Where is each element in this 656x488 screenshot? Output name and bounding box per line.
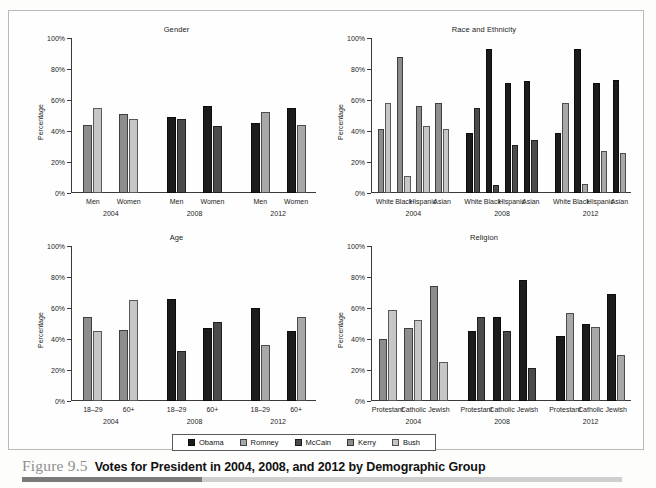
legend-item-kerry: Kerry — [347, 438, 376, 447]
legend-item-mccain: McCain — [295, 438, 331, 447]
x-axis-category-label: Men — [86, 198, 100, 205]
y-axis-tick-label: 80% — [351, 274, 365, 281]
y-axis-tick — [67, 100, 71, 101]
y-axis-tick — [67, 339, 71, 340]
bar — [519, 280, 527, 401]
x-axis-year-label: 2012 — [270, 418, 286, 425]
x-axis-category-label: Protestant — [549, 406, 581, 413]
y-axis-tick — [67, 193, 71, 194]
y-axis-tick — [367, 370, 371, 371]
bar — [203, 328, 212, 401]
x-axis-category-label: Asian — [611, 198, 629, 205]
y-axis-tick-label: 100% — [47, 35, 65, 42]
y-axis-tick-label: 80% — [51, 66, 65, 73]
x-axis-category-label: Catholic — [489, 406, 514, 413]
x-axis-category-label: Men — [253, 198, 267, 205]
x-axis-year-label: 2008 — [187, 418, 203, 425]
bar — [477, 317, 485, 401]
bar — [416, 106, 422, 193]
bar — [385, 103, 391, 193]
bar — [423, 126, 429, 193]
bar — [404, 328, 412, 401]
bar — [177, 119, 186, 193]
y-axis-tick — [367, 38, 371, 39]
legend-swatch-bush — [392, 439, 399, 446]
bar — [556, 336, 564, 401]
x-axis-category-label: Asian — [433, 198, 451, 205]
bar — [582, 184, 588, 193]
figure-frame: GenderPercentageMenWomen2004MenWomen2008… — [8, 10, 644, 450]
y-axis-tick — [367, 401, 371, 402]
bar — [505, 83, 511, 193]
bar — [582, 324, 590, 402]
legend-item-obama: Obama — [188, 438, 224, 447]
bar — [414, 320, 422, 401]
caption-rule-light — [202, 477, 622, 482]
bar — [378, 129, 384, 193]
legend-label: Romney — [251, 438, 279, 447]
bar — [620, 153, 626, 193]
bar — [297, 125, 306, 193]
y-axis-line — [71, 246, 72, 401]
figure-number: Figure 9.5 — [22, 457, 88, 475]
legend-swatch-romney — [240, 439, 247, 446]
y-axis-tick — [367, 100, 371, 101]
bar — [555, 133, 561, 193]
y-axis-tick — [67, 277, 71, 278]
y-axis-tick-label: 0% — [355, 190, 365, 197]
x-axis-category-label: Hispanic — [409, 198, 436, 205]
x-axis-year-label: 2008 — [187, 210, 203, 217]
bar — [297, 317, 306, 401]
bar — [261, 112, 270, 193]
x-axis-line — [71, 192, 316, 193]
y-axis-line — [71, 38, 72, 193]
bar — [203, 106, 212, 193]
plot-area: 100%80%60%40%20%0% — [371, 246, 631, 401]
x-axis-category-label: White — [376, 198, 394, 205]
x-axis-category-label: Protestant — [372, 406, 404, 413]
caption-rule — [22, 477, 622, 482]
bar — [562, 103, 568, 193]
y-axis-tick-label: 40% — [51, 336, 65, 343]
x-axis-category-label: 60+ — [290, 406, 302, 413]
legend-label: Obama — [199, 438, 224, 447]
figure-page: GenderPercentageMenWomen2004MenWomen2008… — [0, 0, 656, 488]
y-axis-label: Percentage — [337, 104, 344, 140]
x-axis-category-label: Jewish — [517, 406, 538, 413]
x-axis-category-label: Hispanic — [498, 198, 525, 205]
x-axis-category-label: 60+ — [123, 406, 135, 413]
x-axis-category-label: Jewish — [606, 406, 627, 413]
bar — [388, 310, 396, 401]
bar — [466, 133, 472, 193]
bar — [474, 108, 480, 193]
legend-label: Bush — [403, 438, 420, 447]
bar — [213, 322, 222, 401]
x-axis-year-label: 2008 — [494, 418, 510, 425]
x-axis-year-label: 2012 — [583, 210, 599, 217]
y-axis-tick-label: 40% — [351, 128, 365, 135]
bar — [566, 313, 574, 401]
x-axis-category-label: Protestant — [460, 406, 492, 413]
y-axis-tick-label: 0% — [55, 190, 65, 197]
x-axis-year-label: 2012 — [583, 418, 599, 425]
y-axis-tick — [67, 370, 71, 371]
y-axis-tick — [367, 339, 371, 340]
x-axis-category-label: 18–29 — [83, 406, 102, 413]
chart-title: Gender — [29, 25, 324, 34]
bar — [503, 331, 511, 401]
y-axis-tick-label: 60% — [51, 97, 65, 104]
figure-caption: Figure 9.5 Votes for President in 2004, … — [22, 457, 485, 475]
y-axis-tick-label: 20% — [351, 367, 365, 374]
bar — [512, 145, 518, 193]
legend-label: Kerry — [358, 438, 376, 447]
y-axis-tick — [367, 69, 371, 70]
bar — [129, 300, 138, 401]
x-axis-category-label: White — [553, 198, 571, 205]
bar — [261, 345, 270, 401]
y-axis-tick-label: 60% — [51, 305, 65, 312]
bar — [213, 126, 222, 193]
bar — [528, 368, 536, 401]
plot-area: 100%80%60%40%20%0% — [71, 246, 316, 401]
chart-title: Religion — [329, 233, 639, 242]
bar — [468, 331, 476, 401]
